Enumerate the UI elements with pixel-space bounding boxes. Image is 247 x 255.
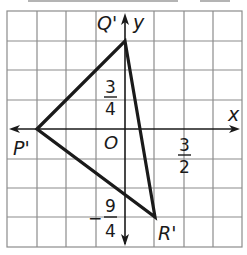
coordinate-plane: x y O Q' P' R' 3 4 3 2 − 9 4 — [0, 0, 247, 255]
cutoff-header-text — [28, 0, 230, 2]
svg-text:3: 3 — [105, 77, 116, 97]
tick-label-y-neg-nine-fourths: − 9 4 — [88, 196, 117, 241]
origin-label: O — [104, 132, 118, 153]
svg-text:−: − — [88, 208, 102, 228]
vertex-label-p-prime: P' — [13, 137, 30, 159]
tick-label-y-three-fourths: 3 4 — [104, 77, 117, 119]
vertex-label-q-prime: Q' — [97, 12, 117, 34]
svg-text:4: 4 — [105, 99, 116, 119]
vertex-label-r-prime: R' — [158, 222, 176, 244]
y-axis-label: y — [132, 11, 145, 33]
svg-text:2: 2 — [179, 157, 190, 177]
svg-text:9: 9 — [105, 196, 116, 216]
svg-text:4: 4 — [105, 221, 116, 241]
svg-text:3: 3 — [179, 135, 190, 155]
x-axis-label: x — [227, 103, 240, 125]
